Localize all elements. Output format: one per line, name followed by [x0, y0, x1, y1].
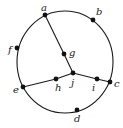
vertex-label-h: h: [55, 82, 61, 93]
vertex-label-c: c: [114, 78, 120, 89]
vertex-label-a: a: [41, 2, 47, 13]
vertex-d: [75, 108, 80, 113]
vertex-h: [54, 77, 59, 82]
vertex-b: [91, 18, 96, 23]
vertex-f: [15, 46, 20, 51]
vertex-label-f: f: [7, 44, 14, 55]
vertex-label-g: g: [69, 47, 75, 58]
vertex-a: [43, 13, 48, 18]
vertex-j: [71, 71, 76, 76]
edge-a-g: [45, 15, 64, 54]
vertex-label-b: b: [96, 6, 102, 17]
outer-cycle: [17, 11, 113, 113]
vertex-label-d: d: [74, 113, 80, 124]
vertex-g: [62, 52, 67, 57]
edge-j-i: [73, 73, 97, 79]
graph-diagram: abcdefghij: [0, 0, 123, 128]
vertex-label-j: j: [69, 77, 74, 88]
vertex-label-i: i: [92, 82, 95, 93]
vertex-label-e: e: [13, 84, 19, 95]
edges: [23, 15, 110, 87]
vertex-labels: abcdefghij: [7, 2, 120, 124]
vertex-e: [21, 85, 26, 90]
edge-e-h: [23, 79, 56, 87]
vertex-i: [95, 77, 100, 82]
vertex-c: [108, 80, 113, 85]
